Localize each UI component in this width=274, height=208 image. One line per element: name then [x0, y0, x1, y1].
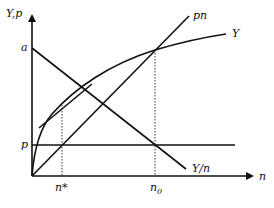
n0-main: n [150, 181, 157, 194]
pn-label: pn [193, 9, 207, 22]
n0-label: n0 [150, 181, 162, 196]
x-axis-label: n [259, 170, 266, 183]
output-curve-label: Y [232, 27, 241, 40]
a-tick-label: a [21, 41, 28, 54]
output-curve [32, 34, 226, 176]
average-product-label: Y/n [192, 162, 210, 175]
n0-subscript: 0 [157, 187, 162, 196]
tangent-line [39, 84, 92, 128]
economics-diagram: Y,p n a Y/n pn Y p n* n0 [0, 0, 274, 208]
p-tick-label: p [21, 138, 28, 151]
average-product-line [32, 48, 186, 169]
y-axis-label: Y,p [6, 7, 22, 20]
n-star-label: n* [55, 181, 68, 194]
